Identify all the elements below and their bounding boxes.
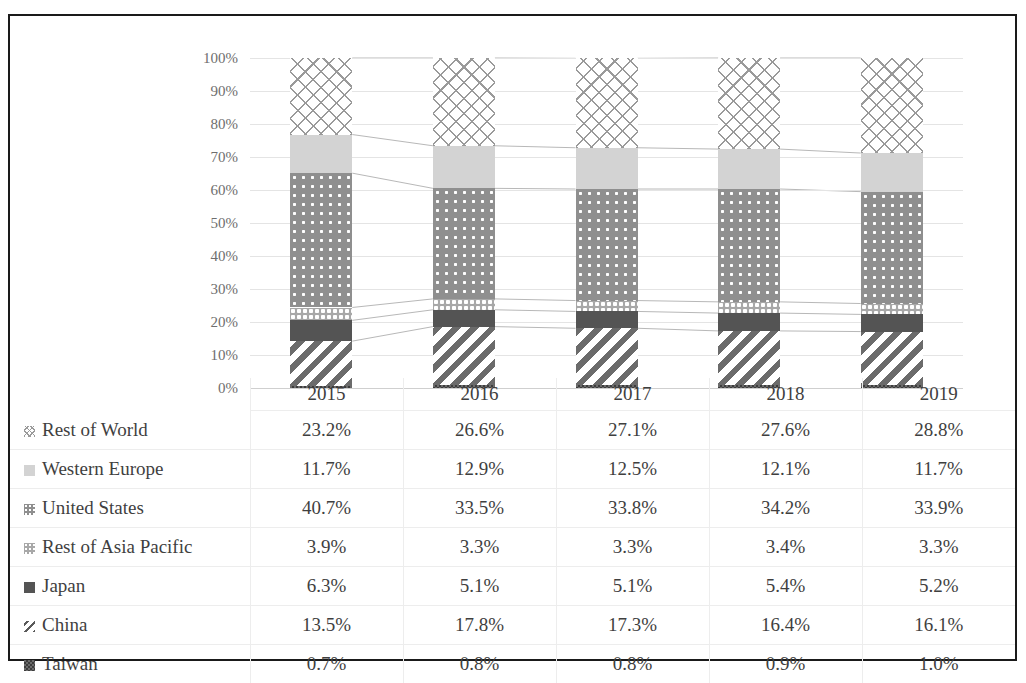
table-value-cell: 5.4% bbox=[709, 567, 862, 606]
table-column-header: 2018 bbox=[709, 378, 862, 411]
stacked-bar-column[interactable] bbox=[290, 58, 352, 388]
y-axis-tick-label: 50% bbox=[176, 217, 238, 229]
bar-segment[interactable] bbox=[861, 153, 923, 192]
table-value-cell: 27.6% bbox=[709, 411, 862, 450]
bar-segment[interactable] bbox=[576, 328, 638, 385]
bar-segment[interactable] bbox=[861, 314, 923, 331]
stacked-bar-column[interactable] bbox=[718, 58, 780, 388]
table-column-header: 2016 bbox=[403, 378, 556, 411]
crosshatch-swatch bbox=[24, 426, 35, 437]
table-column-header: 2017 bbox=[556, 378, 709, 411]
table-value-cell: 33.5% bbox=[403, 489, 556, 528]
table-value-cell: 11.7% bbox=[250, 450, 403, 489]
table-value-cell: 26.6% bbox=[403, 411, 556, 450]
table-body: Rest of World23.2%26.6%27.1%27.6%28.8%We… bbox=[10, 411, 1015, 683]
table-series-label-cell: United States bbox=[10, 489, 250, 528]
table-series-label-cell: China bbox=[10, 606, 250, 645]
table-row: Japan6.3%5.1%5.1%5.4%5.2% bbox=[10, 567, 1015, 606]
bar-segment[interactable] bbox=[433, 299, 495, 310]
table-value-cell: 13.5% bbox=[250, 606, 403, 645]
table-header-row: 20152016201720182019 bbox=[10, 378, 1015, 411]
table-row: Rest of Asia Pacific3.9%3.3%3.3%3.4%3.3% bbox=[10, 528, 1015, 567]
table-value-cell: 3.3% bbox=[403, 528, 556, 567]
speckle-swatch bbox=[24, 543, 35, 554]
chart-figure-container: 0%10%20%30%40%50%60%70%80%90%100% 201520… bbox=[8, 14, 1017, 661]
table-value-cell: 33.8% bbox=[556, 489, 709, 528]
table-value-cell: 12.9% bbox=[403, 450, 556, 489]
bar-segment[interactable] bbox=[290, 135, 352, 174]
bar-segment[interactable] bbox=[433, 58, 495, 146]
series-name: China bbox=[42, 614, 87, 635]
dotted-gray-swatch bbox=[24, 504, 35, 515]
stacked-bar-column[interactable] bbox=[861, 58, 923, 388]
table-value-cell: 1.0% bbox=[862, 645, 1015, 683]
table-value-cell: 16.4% bbox=[709, 606, 862, 645]
series-name: United States bbox=[42, 497, 144, 518]
series-name: Japan bbox=[42, 575, 85, 596]
series-name: Rest of Asia Pacific bbox=[42, 536, 192, 557]
bar-segment[interactable] bbox=[576, 58, 638, 147]
bar-segment[interactable] bbox=[433, 188, 495, 299]
bar-segment[interactable] bbox=[433, 327, 495, 386]
table-value-cell: 34.2% bbox=[709, 489, 862, 528]
table-value-cell: 0.9% bbox=[709, 645, 862, 683]
table-column-header: 2019 bbox=[862, 378, 1015, 411]
bar-segment[interactable] bbox=[718, 313, 780, 331]
bar-segment[interactable] bbox=[718, 302, 780, 313]
table-value-cell: 3.4% bbox=[709, 528, 862, 567]
table-value-cell: 11.7% bbox=[862, 450, 1015, 489]
bar-segment[interactable] bbox=[861, 58, 923, 153]
table-column-header: 2015 bbox=[250, 378, 403, 411]
data-table: 20152016201720182019 Rest of World23.2%2… bbox=[10, 378, 1015, 659]
table-value-cell: 3.3% bbox=[862, 528, 1015, 567]
bar-segment[interactable] bbox=[861, 304, 923, 315]
y-axis-tick-label: 90% bbox=[176, 85, 238, 97]
table-series-label-cell: Western Europe bbox=[10, 450, 250, 489]
bar-segment[interactable] bbox=[290, 308, 352, 321]
table-series-label-cell: Rest of Asia Pacific bbox=[10, 528, 250, 567]
table-corner-cell bbox=[10, 378, 250, 411]
bar-segment[interactable] bbox=[718, 58, 780, 149]
bar-segment[interactable] bbox=[576, 189, 638, 301]
table-value-cell: 33.9% bbox=[862, 489, 1015, 528]
bar-segment[interactable] bbox=[861, 192, 923, 304]
bar-segment[interactable] bbox=[576, 311, 638, 328]
plot-area bbox=[250, 16, 963, 378]
bar-segment[interactable] bbox=[718, 189, 780, 302]
table-value-cell: 12.5% bbox=[556, 450, 709, 489]
bar-segment[interactable] bbox=[433, 146, 495, 189]
bar-segment[interactable] bbox=[290, 320, 352, 341]
bar-segment[interactable] bbox=[861, 332, 923, 385]
table-series-label-cell: Rest of World bbox=[10, 411, 250, 450]
table-row: Rest of World23.2%26.6%27.1%27.6%28.8% bbox=[10, 411, 1015, 450]
bar-segment[interactable] bbox=[433, 310, 495, 327]
checker-swatch bbox=[24, 660, 35, 671]
stacked-bar-column[interactable] bbox=[576, 58, 638, 388]
bar-segment[interactable] bbox=[290, 58, 352, 135]
y-axis-tick-label: 100% bbox=[176, 52, 238, 64]
bar-segment[interactable] bbox=[718, 149, 780, 189]
table-value-cell: 12.1% bbox=[709, 450, 862, 489]
stacked-bar-chart: 0%10%20%30%40%50%60%70%80%90%100% bbox=[10, 16, 1015, 378]
bar-segment[interactable] bbox=[576, 148, 638, 189]
table-value-cell: 0.8% bbox=[556, 645, 709, 683]
y-axis-tick-label: 30% bbox=[176, 283, 238, 295]
table-value-cell: 5.1% bbox=[556, 567, 709, 606]
table-value-cell: 17.8% bbox=[403, 606, 556, 645]
table-value-cell: 3.3% bbox=[556, 528, 709, 567]
table-value-cell: 16.1% bbox=[862, 606, 1015, 645]
table-value-cell: 17.3% bbox=[556, 606, 709, 645]
y-axis-tick-label: 20% bbox=[176, 316, 238, 328]
table-row: Taiwan0.7%0.8%0.8%0.9%1.0% bbox=[10, 645, 1015, 683]
table-series-label-cell: Taiwan bbox=[10, 645, 250, 683]
table-row: United States40.7%33.5%33.8%34.2%33.9% bbox=[10, 489, 1015, 528]
series-name: Rest of World bbox=[42, 419, 148, 440]
bar-segment[interactable] bbox=[718, 331, 780, 385]
table-value-cell: 23.2% bbox=[250, 411, 403, 450]
legend-value-table: 20152016201720182019 Rest of World23.2%2… bbox=[10, 378, 1015, 683]
bar-segment[interactable] bbox=[576, 301, 638, 312]
table-value-cell: 28.8% bbox=[862, 411, 1015, 450]
bar-segment[interactable] bbox=[290, 173, 352, 307]
stacked-bar-column[interactable] bbox=[433, 58, 495, 388]
table-value-cell: 40.7% bbox=[250, 489, 403, 528]
